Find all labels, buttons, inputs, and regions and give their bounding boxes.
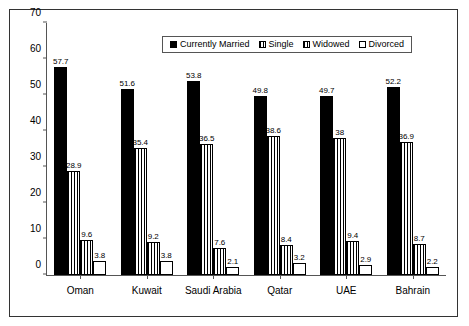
y-axis-tick-label-6: 60: [30, 44, 47, 54]
bar-group-qatar: 49.838.68.43.2Qatar: [247, 23, 314, 275]
bar-single: 28.9: [67, 171, 80, 275]
bar-value-label: 28.9: [66, 162, 82, 170]
bar-value-label: 53.8: [186, 72, 202, 80]
bar-value-label: 36.9: [398, 133, 414, 141]
x-axis-label-4: UAE: [336, 286, 357, 296]
bar-divorced: 3.2: [293, 263, 306, 275]
bar-value-label: 8.4: [281, 236, 292, 244]
x-axis-label-3: Qatar: [267, 286, 292, 296]
plot-area: 010203040506070 57.728.99.63.8Oman51.635…: [46, 23, 446, 276]
bar-group-oman: 57.728.99.63.8Oman: [47, 23, 114, 275]
bar-value-label: 2.2: [427, 258, 438, 266]
chart-figure: Currently MarriedSingleWidowedDivorced 0…: [9, 9, 458, 317]
bar-single: 36.5: [200, 144, 213, 275]
bar-currently-married: 52.2: [387, 87, 400, 275]
bar-value-label: 36.5: [199, 135, 215, 143]
bar-value-label: 51.6: [119, 80, 135, 88]
bar-value-label: 8.7: [414, 235, 425, 243]
bar-currently-married: 49.8: [254, 96, 267, 275]
y-axis-tick-label-0: 0: [35, 260, 47, 270]
bar-currently-married: 49.7: [320, 96, 333, 275]
bar-value-label: 3.8: [94, 252, 105, 260]
bar-currently-married: 51.6: [121, 89, 134, 275]
bar-value-label: 35.4: [132, 139, 148, 147]
y-axis-tick-label-5: 50: [30, 80, 47, 90]
bar-value-label: 9.2: [148, 233, 159, 241]
x-axis-tick-mark-0: [80, 275, 81, 279]
bar-value-label: 49.8: [252, 87, 268, 95]
bar-value-label: 2.1: [227, 258, 238, 266]
bar-value-label: 38: [335, 129, 344, 137]
bar-groups: 57.728.99.63.8Oman51.635.49.23.8Kuwait53…: [47, 23, 446, 275]
y-axis-tick-label-4: 40: [30, 116, 47, 126]
bar-single: 38.6: [267, 136, 280, 275]
bar-value-label: 2.9: [360, 256, 371, 264]
bar-value-label: 7.6: [214, 239, 225, 247]
bar-value-label: 9.6: [81, 231, 92, 239]
bar-value-label: 9.4: [347, 232, 358, 240]
bar-widowed: 9.6: [80, 240, 93, 275]
bar-widowed: 8.4: [280, 245, 293, 275]
y-axis-tick-label-7: 70: [30, 8, 47, 18]
bar-widowed: 9.4: [346, 241, 359, 275]
x-axis-tick-mark-3: [280, 275, 281, 279]
x-axis-label-1: Kuwait: [132, 286, 162, 296]
bar-widowed: 9.2: [147, 242, 160, 275]
x-axis-label-0: Oman: [67, 286, 94, 296]
bar-single: 36.9: [400, 142, 413, 275]
bar-widowed: 8.7: [413, 244, 426, 275]
bar-value-label: 49.7: [319, 87, 335, 95]
bar-value-label: 57.7: [53, 58, 69, 66]
bar-single: 38: [333, 138, 346, 275]
bar-widowed: 7.6: [213, 248, 226, 275]
bar-currently-married: 57.7: [54, 67, 67, 275]
bar-divorced: 3.8: [160, 261, 173, 275]
bar-divorced: 2.9: [359, 265, 372, 275]
x-axis-label-5: Bahrain: [396, 286, 430, 296]
x-axis-label-2: Saudi Arabia: [185, 286, 242, 296]
bar-value-label: 3.8: [161, 252, 172, 260]
x-axis-tick-mark-2: [213, 275, 214, 279]
bar-group-uae: 49.7389.42.9UAE: [313, 23, 380, 275]
bar-divorced: 2.2: [426, 267, 439, 275]
y-axis-tick-label-1: 10: [30, 224, 47, 234]
x-axis-tick-mark-4: [346, 275, 347, 279]
x-axis-tick-mark-5: [413, 275, 414, 279]
bar-divorced: 2.1: [226, 267, 239, 275]
bar-single: 35.4: [134, 148, 147, 275]
bar-group-kuwait: 51.635.49.23.8Kuwait: [114, 23, 181, 275]
bar-value-label: 52.2: [385, 78, 401, 86]
bar-divorced: 3.8: [93, 261, 106, 275]
bar-group-saudi-arabia: 53.836.57.62.1Saudi Arabia: [180, 23, 247, 275]
bar-group-bahrain: 52.236.98.72.2Bahrain: [380, 23, 447, 275]
y-axis-tick-label-2: 20: [30, 188, 47, 198]
bar-value-label: 38.6: [265, 127, 281, 135]
x-axis-tick-mark-1: [147, 275, 148, 279]
y-axis-tick-label-3: 30: [30, 152, 47, 162]
bar-currently-married: 53.8: [187, 81, 200, 275]
bar-value-label: 3.2: [294, 254, 305, 262]
